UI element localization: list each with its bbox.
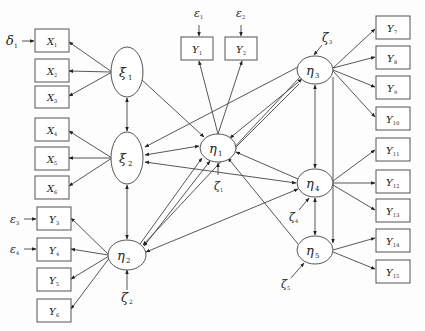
svg-text:1: 1 [200,14,203,20]
indicator-X4: X 4 [35,118,69,141]
indicator-X2: X 2 [35,59,69,82]
svg-text:η: η [306,176,314,191]
svg-text:1: 1 [199,50,202,56]
svg-text:4: 4 [295,218,298,224]
svg-text:η: η [306,243,314,258]
svg-text:2: 2 [128,160,132,168]
indicator-Y1: Y 1 [181,37,213,60]
svg-text:ζ: ζ [121,290,129,305]
indicator-Y10: Y 10 [376,107,410,130]
indicator-Y13: Y 13 [376,199,410,222]
indicator-Y9: Y 9 [376,76,410,99]
latent-eta3: η 3 [297,56,333,84]
svg-text:10: 10 [393,120,399,126]
svg-text:η: η [306,63,314,78]
svg-text:7: 7 [394,29,397,35]
disturbance-zeta2: ζ 2 [121,290,133,305]
latent-eta4: η 4 [297,169,333,197]
svg-text:δ: δ [6,33,14,48]
svg-text:3: 3 [54,98,57,104]
indicator-Y11: Y 11 [376,138,410,161]
error-eps3: ε 3 [10,213,19,226]
svg-text:η: η [209,141,217,156]
x-indicators: X 1 X 2 X 3 X 4 X 5 X 6 [35,29,69,199]
indicator-X6: X 6 [35,176,69,199]
error-delta1: δ 1 [6,33,18,49]
svg-text:4: 4 [56,251,59,257]
svg-text:2: 2 [129,298,133,305]
y-indicators-top: Y 1 Y 2 [181,37,257,60]
disturbance-zeta1: ζ 1 [214,180,223,193]
svg-text:3: 3 [315,72,319,80]
svg-text:1: 1 [54,42,57,48]
indicator-Y12: Y 12 [376,170,410,193]
y-indicators-right: Y 7 Y 8 Y 9 Y 10 Y 11 Y 12 [376,16,410,283]
indicator-Y14: Y 14 [376,229,410,252]
svg-text:1: 1 [220,187,223,193]
svg-text:15: 15 [393,273,399,279]
svg-text:4: 4 [16,250,19,256]
indicator-Y7: Y 7 [376,16,410,39]
y-indicators-left: Y 3 Y 4 Y 5 Y 6 [37,207,71,322]
svg-text:3: 3 [329,39,332,45]
svg-text:4: 4 [315,185,320,193]
svg-text:3: 3 [56,220,59,226]
disturbance-zeta3: ζ 3 [322,31,332,45]
svg-text:5: 5 [315,252,319,260]
indicator-Y5: Y 5 [37,268,71,291]
latent-eta1: η 1 [200,134,236,162]
svg-text:14: 14 [393,242,399,248]
svg-text:12: 12 [393,183,399,189]
indicator-Y8: Y 8 [376,46,410,69]
svg-text:1: 1 [218,150,222,158]
indicator-Y3: Y 3 [37,207,71,230]
latent-eta2: η 2 [108,240,146,270]
indicator-Y15: Y 15 [376,260,410,283]
indicator-X5: X 5 [35,147,69,170]
svg-text:5: 5 [54,160,57,166]
svg-text:3: 3 [16,220,19,226]
sem-diagram: ξ 1 ξ 2 η 1 η 2 η 3 η 4 η 5 X 1 [0,0,425,331]
latent-xi2: ξ 2 [111,132,143,184]
svg-text:5: 5 [287,285,290,291]
svg-text:6: 6 [54,189,57,195]
error-eps4: ε 4 [10,243,19,256]
indicator-Y6: Y 6 [37,299,71,322]
svg-text:2: 2 [54,72,57,78]
svg-text:9: 9 [394,89,397,95]
svg-text:2: 2 [242,14,245,20]
svg-text:6: 6 [56,312,59,318]
indicator-X1: X 1 [35,29,69,52]
error-eps2: ε 2 [236,7,245,20]
diagram-svg: ξ 1 ξ 2 η 1 η 2 η 3 η 4 η 5 X 1 [0,0,425,331]
indicator-Y2: Y 2 [225,37,257,60]
disturbance-zeta4: ζ 4 [289,211,298,224]
svg-text:ξ: ξ [119,65,127,80]
svg-text:η: η [117,248,125,263]
svg-text:4: 4 [54,131,57,137]
svg-text:2: 2 [126,257,130,265]
svg-text:1: 1 [14,42,18,49]
indicator-Y4: Y 4 [37,238,71,261]
svg-text:2: 2 [243,50,246,56]
latent-eta5: η 5 [297,236,333,264]
svg-text:13: 13 [393,212,399,218]
error-eps1: ε 1 [194,7,203,20]
latent-xi1: ξ 1 [111,47,143,97]
svg-text:8: 8 [394,59,397,65]
disturbance-zeta5: ζ 5 [281,278,290,291]
svg-text:11: 11 [393,151,399,157]
svg-text:1: 1 [128,74,132,82]
indicator-X3: X 3 [35,86,69,108]
svg-text:5: 5 [56,281,59,287]
svg-text:ξ: ξ [119,151,127,166]
